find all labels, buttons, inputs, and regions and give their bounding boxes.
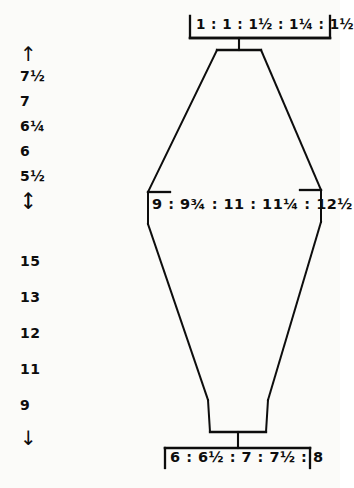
top-measurement-label: 1 : 1 : 1½ : 1¼ : 1½ [196, 18, 354, 32]
scale-value: 12 [20, 326, 40, 340]
scale-value: 11 [20, 362, 40, 376]
upper-length-scale: ↑ 7½ 7 6¼ 6 5½ ↓ [20, 44, 45, 212]
scale-value: 9 [20, 398, 30, 412]
chest-measurement-bracket [148, 190, 321, 192]
bottom-measurement-label: 6 : 6½ : 7 : 7½ : 8 [170, 450, 324, 465]
up-arrow-icon: ↑ [20, 190, 37, 210]
scale-value: 6¼ [20, 119, 45, 133]
scale-value: 7½ [20, 69, 45, 83]
scale-value: 7 [20, 94, 30, 108]
scale-value: 15 [20, 254, 40, 268]
chest-measurement-label: 9 : 9¾ : 11 : 11¼ : 12½ [152, 197, 353, 212]
up-arrow-icon: ↑ [20, 44, 37, 64]
lower-length-scale: ↑ 15 13 12 11 9 ↓ [20, 190, 40, 448]
down-arrow-icon: ↓ [20, 428, 37, 448]
scale-value: 5½ [20, 169, 45, 183]
garment-outline [148, 50, 321, 432]
scale-value: 13 [20, 290, 40, 304]
scale-value: 6 [20, 144, 30, 158]
